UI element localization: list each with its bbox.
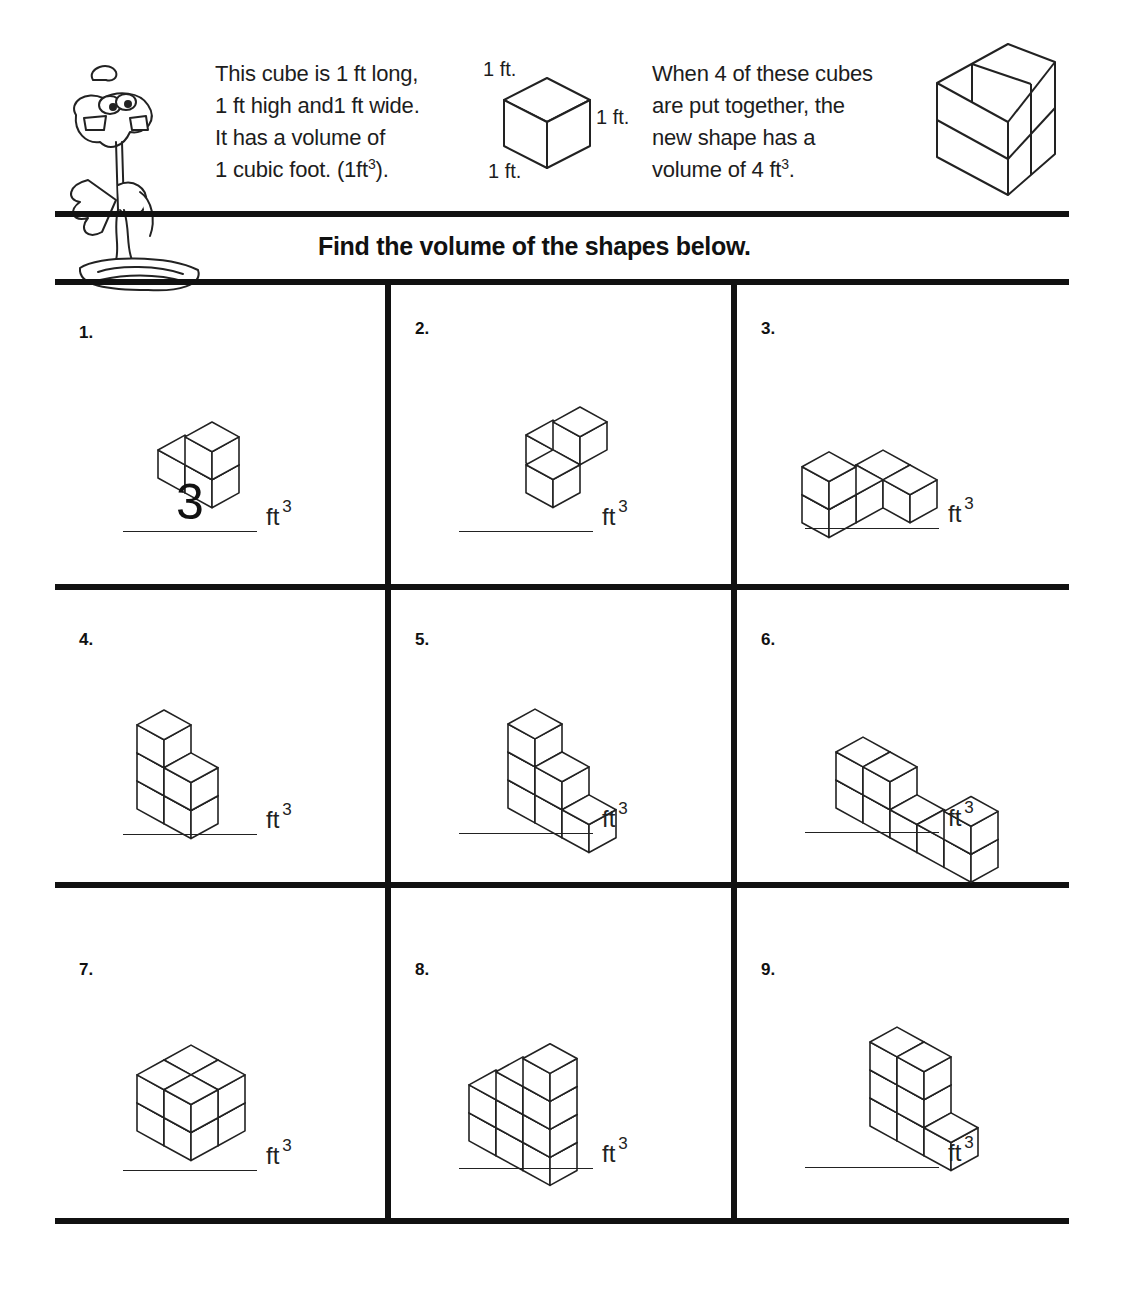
- cube-stack-figure: [737, 888, 1069, 1218]
- bird-mascot-illustration: [58, 60, 208, 300]
- answer-blank-line[interactable]: [805, 1167, 939, 1168]
- answer-blank-line[interactable]: [123, 834, 257, 835]
- four-cube-diagram: [932, 40, 1062, 200]
- intro-line: It has a volume of: [215, 122, 485, 154]
- intro-description-four-cubes: When 4 of these cubes are put together, …: [652, 58, 932, 186]
- unit-text: ft: [266, 806, 279, 833]
- intro-line: When 4 of these cubes: [652, 58, 932, 90]
- unit-label: ft3: [266, 804, 292, 834]
- unit-text: ft: [948, 500, 961, 527]
- problem-cell-1: 1.3ft3: [55, 285, 385, 584]
- answer-blank-line[interactable]: [805, 832, 939, 833]
- answer-blank-line[interactable]: [123, 531, 257, 532]
- problem-cell-4: 4.ft3: [55, 590, 385, 882]
- unit-text: ft: [602, 1140, 615, 1167]
- cube-stack-figure: [391, 590, 731, 882]
- superscript: 3: [368, 156, 376, 172]
- answer-blank-line[interactable]: [805, 528, 939, 529]
- unit-text: ft: [948, 1139, 961, 1166]
- unit-cube-diagram: [500, 72, 596, 174]
- problem-cell-2: 2.ft3: [391, 285, 731, 584]
- unit-text: ft: [948, 804, 961, 831]
- answer-blank-line[interactable]: [123, 1170, 257, 1171]
- unit-text: ft: [602, 503, 615, 530]
- intro-line-tail: .: [789, 157, 795, 182]
- problem-cell-5: 5.ft3: [391, 590, 731, 882]
- unit-exponent: 3: [964, 798, 973, 817]
- cube-stack-figure: [55, 590, 385, 882]
- unit-label: ft3: [948, 1137, 974, 1167]
- unit-text: ft: [266, 1142, 279, 1169]
- intro-line: are put together, the: [652, 90, 932, 122]
- unit-text: ft: [266, 503, 279, 530]
- problem-cell-8: 8.ft3: [391, 888, 731, 1218]
- problem-cell-6: 6.ft3: [737, 590, 1069, 882]
- cube-stack-figure: [737, 285, 1069, 584]
- unit-exponent: 3: [282, 1136, 291, 1155]
- unit-label: ft3: [948, 498, 974, 528]
- superscript: 3: [781, 156, 789, 172]
- grid-rule-bottom: [55, 1218, 1069, 1224]
- intro-line: new shape has a: [652, 122, 932, 154]
- answer-blank-line[interactable]: [459, 833, 593, 834]
- intro-line: 1 cubic foot. (1ft3).: [215, 154, 485, 186]
- intro-line: volume of 4 ft3.: [652, 154, 932, 186]
- unit-exponent: 3: [618, 1134, 627, 1153]
- unit-label: ft3: [948, 802, 974, 832]
- problem-cell-9: 9.ft3: [737, 888, 1069, 1218]
- unit-exponent: 3: [964, 1133, 973, 1152]
- unit-label: ft3: [602, 803, 628, 833]
- unit-label: ft3: [602, 1138, 628, 1168]
- unit-label: ft3: [266, 501, 292, 531]
- intro-description-single-cube: This cube is 1 ft long, 1 ft high and1 f…: [215, 58, 485, 186]
- cube-stack-figure: [737, 590, 1069, 882]
- cube-stack-figure: [55, 888, 385, 1218]
- intro-line-text: 1 cubic foot. (1ft: [215, 157, 368, 182]
- unit-exponent: 3: [282, 497, 291, 516]
- unit-exponent: 3: [964, 494, 973, 513]
- unit-text: ft: [602, 805, 615, 832]
- cube-stack-figure: [391, 285, 731, 584]
- intro-line-tail: ).: [376, 157, 389, 182]
- problem-cell-3: 3.ft3: [737, 285, 1069, 584]
- instructions-title: Find the volume of the shapes below.: [318, 232, 751, 261]
- unit-label: ft3: [266, 1140, 292, 1170]
- unit-exponent: 3: [618, 799, 627, 818]
- intro-line-text: volume of 4 ft: [652, 157, 781, 182]
- problem-cell-7: 7.ft3: [55, 888, 385, 1218]
- unit-label: ft3: [602, 501, 628, 531]
- unit-exponent: 3: [282, 800, 291, 819]
- intro-line: This cube is 1 ft long,: [215, 58, 485, 90]
- cube-stack-figure: [55, 285, 385, 584]
- answer-value[interactable]: 3: [123, 473, 257, 531]
- dimension-label-right: 1 ft.: [596, 106, 629, 129]
- unit-exponent: 3: [618, 497, 627, 516]
- answer-blank-line[interactable]: [459, 531, 593, 532]
- intro-line: 1 ft high and1 ft wide.: [215, 90, 485, 122]
- header-rule-top: [55, 211, 1069, 217]
- answer-blank-line[interactable]: [459, 1168, 593, 1169]
